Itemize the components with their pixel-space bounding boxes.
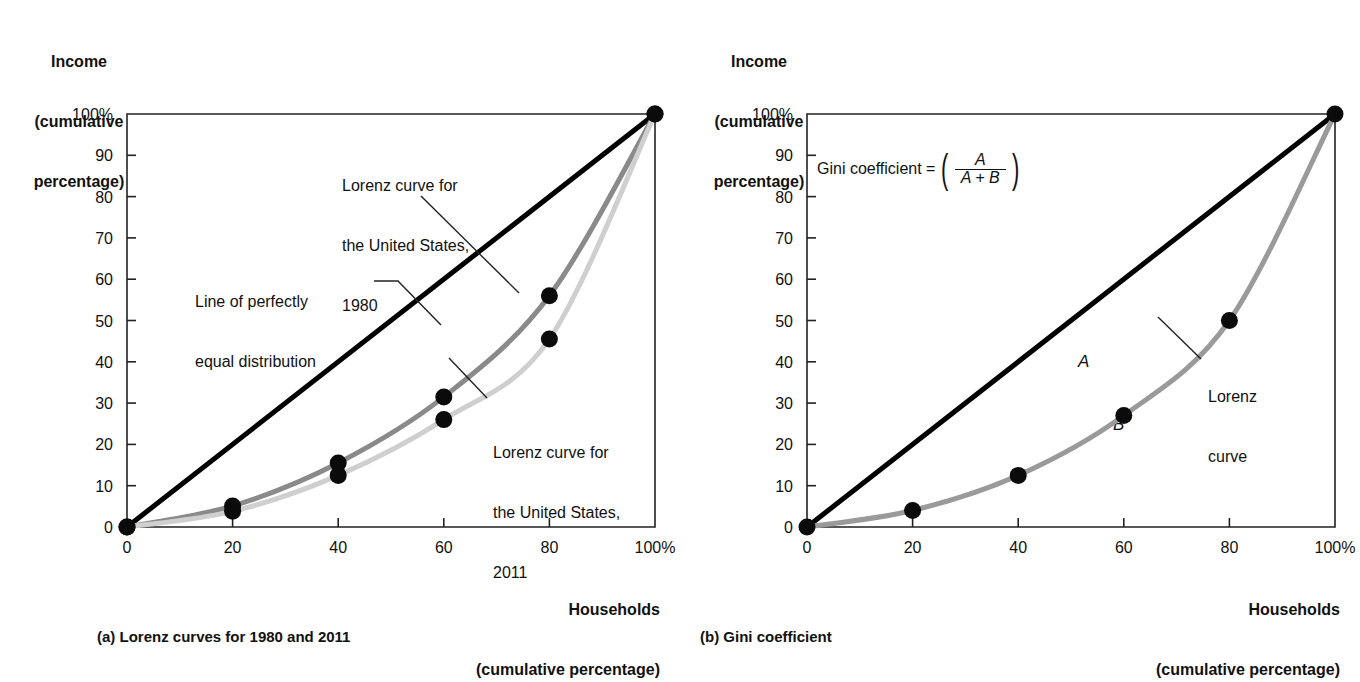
data-point-marker <box>1115 407 1132 424</box>
y-axis-tick-label: 90 <box>775 147 793 164</box>
leader-line-lorenz-1980 <box>421 196 519 293</box>
y-axis-tick-label: 70 <box>775 230 793 247</box>
y-axis-tick-label: 10 <box>95 478 113 495</box>
data-point-marker <box>904 502 921 519</box>
panel-gini-coefficient: Income (cumulative percentage) Household… <box>680 0 1360 668</box>
x-axis-tick-label: 80 <box>541 539 559 556</box>
data-point-marker <box>435 388 452 405</box>
y-axis-tick-label: 60 <box>95 271 113 288</box>
x-axis-tick-label: 60 <box>435 539 453 556</box>
x-axis-tick-label: 100% <box>1315 539 1356 556</box>
data-point-marker <box>224 503 241 520</box>
y-axis-tick-label: 50 <box>775 313 793 330</box>
y-axis-tick-label: 40 <box>95 354 113 371</box>
y-axis-tick-label: 40 <box>775 354 793 371</box>
x-axis-tick-label: 0 <box>123 539 132 556</box>
data-point-marker <box>799 519 816 536</box>
leader-line-lorenz-curve <box>1158 317 1201 359</box>
y-axis-tick-label: 0 <box>784 519 793 536</box>
y-axis-tick-label: 50 <box>95 313 113 330</box>
panel-lorenz-curves: Income (cumulative percentage) Household… <box>0 0 680 668</box>
x-axis-tick-label: 20 <box>224 539 242 556</box>
y-axis-tick-label: 70 <box>95 230 113 247</box>
y-axis-tick-label: 80 <box>95 189 113 206</box>
y-axis-tick-label: 100% <box>752 106 793 123</box>
data-point-marker <box>541 331 558 348</box>
series-line <box>807 114 1335 527</box>
y-axis-tick-label: 20 <box>775 436 793 453</box>
y-axis-tick-label: 10 <box>775 478 793 495</box>
series-line <box>127 114 655 527</box>
data-point-marker <box>330 467 347 484</box>
x-axis-tick-label: 60 <box>1115 539 1133 556</box>
data-point-marker <box>119 519 136 536</box>
x-axis-tick-label: 80 <box>1221 539 1239 556</box>
x-axis-tick-label: 40 <box>329 539 347 556</box>
x-axis-tick-label: 40 <box>1009 539 1027 556</box>
y-axis-tick-label: 60 <box>775 271 793 288</box>
data-point-marker <box>647 106 664 123</box>
x-axis-tick-label: 100% <box>635 539 676 556</box>
y-axis-tick-label: 20 <box>95 436 113 453</box>
chart-svg-a: 0102030405060708090100%020406080100% <box>0 0 680 668</box>
data-point-marker <box>1221 312 1238 329</box>
y-axis-tick-label: 90 <box>95 147 113 164</box>
y-axis-tick-label: 80 <box>775 189 793 206</box>
x-axis-tick-label: 20 <box>904 539 922 556</box>
data-point-marker <box>541 287 558 304</box>
data-point-marker <box>1010 467 1027 484</box>
y-axis-tick-label: 100% <box>72 106 113 123</box>
y-axis-tick-label: 0 <box>104 519 113 536</box>
y-axis-tick-label: 30 <box>95 395 113 412</box>
data-point-marker <box>435 411 452 428</box>
chart-svg-b: 0102030405060708090100%020406080100% <box>680 0 1360 668</box>
y-axis-tick-label: 30 <box>775 395 793 412</box>
data-point-marker <box>1327 106 1344 123</box>
x-axis-tick-label: 0 <box>803 539 812 556</box>
